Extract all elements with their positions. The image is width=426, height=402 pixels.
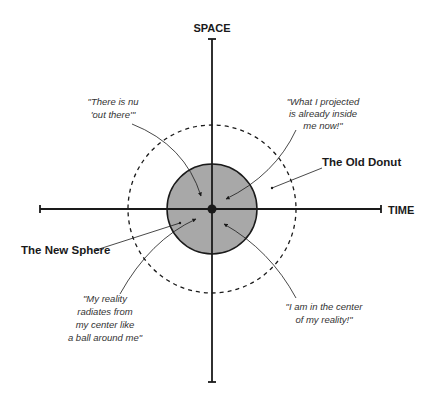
svg-text:my center like: my center like (76, 319, 135, 330)
quote-top-left: "There is nu 'out there'" (88, 96, 140, 120)
svg-text:"I am in the center: "I am in the center (286, 301, 364, 312)
svg-text:"What I projected: "What I projected (287, 96, 360, 107)
quote-bottom-left: "My reality radiates from my center like… (68, 293, 143, 343)
space-time-diagram: SPACE TIME The Old Donut The New Sphere … (0, 0, 426, 402)
svg-text:"My reality: "My reality (83, 293, 128, 304)
svg-text:of my reality!": of my reality!" (295, 314, 353, 325)
svg-text:radiates from: radiates from (77, 306, 133, 317)
center-dot (208, 205, 217, 214)
svg-text:'out there'": 'out there'" (91, 109, 136, 120)
time-label: TIME (388, 204, 414, 216)
svg-text:a ball around me": a ball around me" (68, 332, 143, 343)
quote-bottom-right: "I am in the center of my reality!" (286, 301, 364, 325)
old-donut-label: The Old Donut (322, 156, 401, 168)
svg-text:"There is nu: "There is nu (88, 96, 140, 107)
svg-text:is already inside: is already inside (289, 108, 357, 119)
old-donut-pointer (272, 168, 322, 188)
quote-top-right: "What I projected is already inside me n… (287, 96, 360, 131)
space-label: SPACE (193, 22, 230, 34)
svg-text:me now!": me now!" (303, 120, 343, 131)
